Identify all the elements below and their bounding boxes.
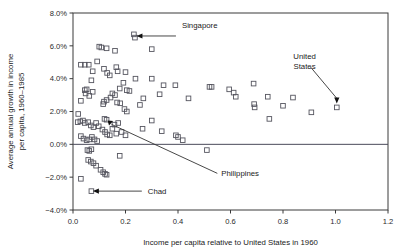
data-point <box>79 177 84 182</box>
plot-border <box>73 13 388 210</box>
x-tick-label-4: 0.8 <box>278 217 289 226</box>
chad-annotation-label: Chad <box>148 187 167 196</box>
data-point <box>159 129 164 134</box>
scatter-chart-figure: 0.00.20.40.60.81.01.28.0%6.0%4.0%2.0%0.0… <box>0 0 398 252</box>
x-tick-label-6: 1.2 <box>383 217 394 226</box>
data-point <box>291 95 296 100</box>
y-tick-label-2: 4.0% <box>50 74 68 83</box>
data-point <box>133 76 138 81</box>
data-point <box>335 105 340 110</box>
data-point <box>90 69 95 74</box>
x-tick-label-0: 0.0 <box>68 217 79 226</box>
data-point <box>251 81 256 86</box>
x-axis-title: Income per capita relative to United Sta… <box>143 238 318 247</box>
united-states-leader-line <box>311 67 337 98</box>
x-tick-label-3: 0.6 <box>225 217 236 226</box>
data-point <box>123 70 128 75</box>
data-point <box>157 92 162 97</box>
data-point <box>205 148 210 153</box>
y-tick-label-0: 8.0% <box>50 9 68 18</box>
y-axis-title-line-1: per capita, 1960–1985 <box>17 72 26 150</box>
data-point <box>161 83 166 88</box>
x-tick-label-2: 0.4 <box>173 217 184 226</box>
data-point <box>79 99 84 104</box>
chart-canvas: 0.00.20.40.60.81.01.28.0%6.0%4.0%2.0%0.0… <box>0 0 398 252</box>
singapore-annotation-label: Singapore <box>182 21 218 30</box>
united-states-arrowhead <box>334 97 339 103</box>
united-states-annotation-label-line-0: United <box>293 52 316 61</box>
data-point <box>114 131 119 136</box>
data-point <box>149 118 154 123</box>
united-states-annotation-label-line-1: States <box>294 62 316 71</box>
data-point <box>121 80 126 85</box>
data-point <box>117 154 122 159</box>
y-axis-title-line-0: Average annual growth in income <box>6 54 15 170</box>
y-tick-label-3: 2.0% <box>50 107 68 116</box>
chart-annotations: SingaporeUnitedStatesPhilippinesChad <box>93 21 340 196</box>
y-tick-label-1: 6.0% <box>50 42 68 51</box>
data-point <box>104 46 109 51</box>
data-point <box>141 96 146 101</box>
data-point <box>76 112 81 117</box>
data-point <box>89 78 94 83</box>
data-point <box>267 117 272 122</box>
data-point <box>265 94 270 99</box>
y-tick-label-6: −4.0% <box>45 206 67 215</box>
data-point <box>113 48 118 53</box>
data-point <box>138 103 143 108</box>
data-point <box>186 96 191 101</box>
philippines-annotation-label: Philippines <box>221 169 259 178</box>
plot-frame <box>73 13 388 210</box>
data-point <box>140 126 145 131</box>
data-point <box>95 59 100 64</box>
data-point <box>173 83 178 88</box>
x-tick-label-1: 0.2 <box>120 217 131 226</box>
data-point <box>281 103 286 108</box>
axis-ticks: 0.00.20.40.60.81.01.28.0%6.0%4.0%2.0%0.0… <box>45 9 393 226</box>
data-point <box>227 87 232 92</box>
data-point <box>149 76 154 81</box>
data-point <box>309 110 314 115</box>
data-point <box>180 138 185 143</box>
x-tick-label-5: 1.0 <box>330 217 341 226</box>
y-tick-label-4: 0.0% <box>50 140 68 149</box>
data-point <box>149 47 154 52</box>
y-tick-label-5: −2.0% <box>45 173 67 182</box>
data-point <box>117 86 122 91</box>
